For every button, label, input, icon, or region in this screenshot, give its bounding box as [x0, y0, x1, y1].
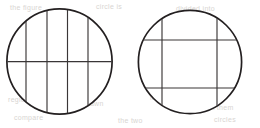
- diagram-canvas: the figure circle is divided into region…: [0, 0, 260, 128]
- two-circles-svg: [0, 0, 260, 128]
- right-circle-group: [132, 4, 250, 124]
- left-circle-group: [2, 2, 118, 126]
- right-circle-outline: [138, 10, 241, 113]
